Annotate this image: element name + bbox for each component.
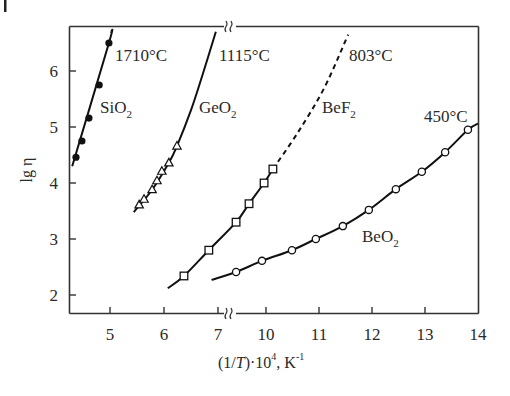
x-tick-label: 6 bbox=[160, 325, 169, 344]
x-tick-label: 7 bbox=[214, 325, 223, 344]
data-point-filled-circle bbox=[72, 154, 79, 161]
x-tick-label: 14 bbox=[470, 325, 488, 344]
data-point-open-circle bbox=[392, 186, 399, 193]
data-point-open-triangle bbox=[173, 142, 181, 150]
data-point-open-circle bbox=[442, 149, 449, 156]
data-point-open-square bbox=[260, 179, 268, 187]
y-tick-label: 6 bbox=[50, 62, 59, 81]
series-label-beo2: BeO2 bbox=[362, 227, 399, 249]
data-point-open-square bbox=[232, 218, 240, 226]
corner-mark bbox=[4, 0, 7, 12]
data-point-filled-circle bbox=[78, 137, 85, 144]
x-tick-label: 11 bbox=[311, 325, 327, 344]
data-point-open-circle bbox=[232, 268, 239, 275]
y-tick-label: 4 bbox=[50, 174, 59, 193]
data-point-open-circle bbox=[464, 126, 471, 133]
data-point-open-circle bbox=[418, 168, 425, 175]
x-tick-label: 10 bbox=[258, 325, 275, 344]
temp-label-geo2: 1115°C bbox=[219, 46, 270, 65]
viscosity-chart: 567101112131423456 lg η (1/T)·104, K-1 S… bbox=[0, 0, 510, 396]
series-line bbox=[168, 169, 273, 288]
series-label-geo2: GeO2 bbox=[199, 98, 237, 120]
data-point-filled-circle bbox=[105, 39, 112, 46]
series-label-bef2: BeF2 bbox=[322, 98, 356, 120]
y-tick-label: 2 bbox=[50, 286, 59, 305]
y-tick-label: 3 bbox=[50, 230, 59, 249]
data-point-open-square bbox=[245, 200, 253, 208]
data-point-open-square bbox=[205, 246, 213, 254]
temp-label-bef2: 803°C bbox=[349, 46, 393, 65]
temp-label-beo2: 450°C bbox=[424, 107, 468, 126]
data-point-open-circle bbox=[365, 206, 372, 213]
data-point-filled-circle bbox=[96, 81, 103, 88]
axis-break-bottom bbox=[225, 308, 232, 319]
data-point-open-circle bbox=[288, 247, 295, 254]
temp-label-sio2: 1710°C bbox=[115, 46, 167, 65]
data-point-open-square bbox=[269, 165, 277, 173]
data-point-open-circle bbox=[339, 223, 346, 230]
x-axis-label: (1/T)·104, K-1 bbox=[218, 351, 304, 372]
x-tick-label: 5 bbox=[106, 325, 115, 344]
x-tick-label: 13 bbox=[417, 325, 434, 344]
y-tick-label: 5 bbox=[50, 118, 59, 137]
series-label-sio2: SiO2 bbox=[100, 98, 132, 120]
axis-break-top bbox=[225, 21, 232, 32]
data-point-open-circle bbox=[258, 257, 265, 264]
series-layer bbox=[72, 30, 478, 289]
data-point-filled-circle bbox=[85, 114, 92, 121]
series-bef2 bbox=[168, 35, 348, 289]
x-tick-label: 12 bbox=[364, 325, 381, 344]
data-point-open-circle bbox=[312, 235, 319, 242]
y-axis-label: lg η bbox=[18, 158, 36, 183]
data-point-open-square bbox=[180, 272, 188, 280]
